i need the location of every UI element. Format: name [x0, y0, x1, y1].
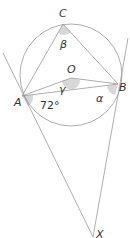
label-o: O [67, 63, 76, 76]
label-alpha: α [96, 92, 104, 105]
label-a: A [13, 96, 22, 109]
angle-shade-a [22, 95, 33, 106]
label-c: C [59, 7, 67, 20]
label-x: X [95, 228, 104, 238]
geometry-diagram: C β O γ B α A 72° X [0, 0, 130, 238]
label-72: 72° [40, 99, 60, 112]
segment-ac [22, 24, 63, 96]
angle-shade-b [107, 84, 118, 95]
label-beta: β [59, 38, 67, 51]
label-gamma: γ [59, 83, 66, 96]
tangent-b [93, 38, 128, 237]
label-b: B [119, 81, 127, 94]
